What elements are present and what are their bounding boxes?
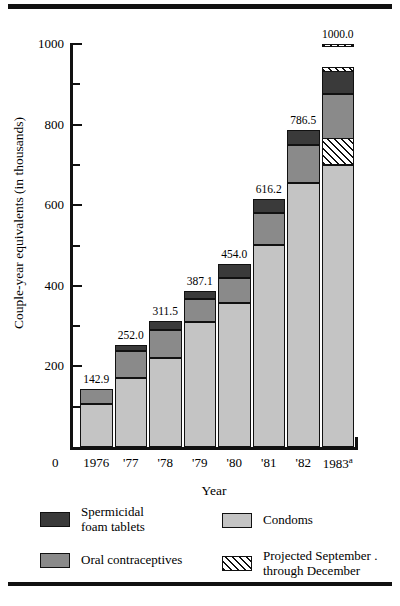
y-tick-minor-500 — [73, 245, 80, 247]
bar-value-label-1983: 1000.0 — [303, 28, 373, 40]
bar-segment-oral-contraceptives — [253, 213, 286, 245]
bar-1983[interactable] — [322, 44, 355, 447]
bar-77[interactable] — [115, 345, 148, 447]
legend-swatch-dark — [40, 512, 70, 527]
bar-segment-oral-contraceptives — [115, 351, 148, 377]
bar-78[interactable] — [149, 321, 182, 447]
x-axis-right-cap — [355, 437, 358, 450]
bar-81[interactable] — [253, 199, 286, 447]
legend-label-line1: Projected September . — [263, 549, 377, 564]
legend-item-3[interactable]: Projected September .through December — [222, 549, 377, 578]
bar-segment-spermicidal-foam-tablets — [115, 345, 148, 351]
legend-label-line1: Oral contraceptives — [81, 553, 182, 568]
bar-80[interactable] — [218, 264, 251, 447]
bar-segment-condoms — [149, 358, 182, 447]
bar-segment-spermicidal-foam-tablets — [218, 264, 251, 278]
chart-legend: Spermicidalfoam tabletsCondomsOral contr… — [0, 505, 400, 575]
legend-item-0[interactable]: Spermicidalfoam tablets — [40, 505, 145, 534]
bar-1976[interactable] — [80, 389, 113, 447]
y-tick-major-800 — [73, 124, 82, 126]
bar-segment-spermicidal-foam-tablets — [149, 321, 182, 330]
legend-label-1: Condoms — [263, 513, 313, 528]
bar-segment-spermicidal-foam-tablets — [253, 199, 286, 214]
bar-segment-condoms — [80, 404, 113, 447]
legend-swatch-medium — [40, 553, 70, 568]
bar-segment-condoms — [287, 183, 320, 447]
x-axis-zero-label: 0 — [52, 455, 59, 471]
y-tick-major-600 — [73, 204, 82, 206]
bar-82[interactable] — [287, 130, 320, 447]
bar-segment-projected-2 — [322, 44, 355, 47]
bar-segment-projected-1 — [322, 67, 355, 72]
bar-segment-oral-contraceptives — [80, 389, 113, 403]
legend-label-line2: through December — [263, 564, 377, 579]
y-tick-major-1000 — [73, 43, 82, 45]
bar-segment-condoms — [184, 322, 217, 447]
y-tick-label-1000: 1000 — [24, 37, 64, 50]
bar-segment-spermicidal-foam-tablets — [184, 291, 217, 299]
y-tick-label-400: 400 — [24, 279, 64, 292]
y-axis-title: Couple-year equivalents (in thousands) — [11, 58, 27, 388]
y-tick-minor-100 — [73, 406, 80, 408]
bar-segment-condoms — [218, 303, 251, 447]
legend-label-line1: Spermicidal — [81, 505, 145, 520]
bar-segment-spermicidal-foam-tablets — [322, 71, 355, 94]
x-axis-title: Year — [70, 483, 358, 499]
y-tick-label-600: 600 — [24, 198, 64, 211]
legend-label-3: Projected September .through December — [263, 549, 377, 578]
bar-segment-condoms — [322, 165, 355, 447]
legend-label-0: Spermicidalfoam tablets — [81, 505, 145, 534]
y-tick-major-400 — [73, 285, 82, 287]
legend-item-1[interactable]: Condoms — [222, 513, 313, 528]
bar-segment-condoms — [253, 245, 286, 447]
bottom-rule — [8, 582, 392, 586]
legend-swatch-hatched — [222, 556, 252, 571]
bar-segment-oral-contraceptives — [149, 330, 182, 357]
legend-item-2[interactable]: Oral contraceptives — [40, 553, 182, 568]
y-tick-minor-700 — [73, 164, 80, 166]
legend-label-line1: Condoms — [263, 513, 313, 528]
bar-segment-oral-contraceptives — [218, 278, 251, 303]
y-tick-minor-300 — [73, 325, 80, 327]
stacked-bar-chart: Couple-year equivalents (in thousands) 2… — [0, 0, 400, 470]
x-axis-line — [70, 447, 358, 450]
y-tick-minor-900 — [73, 83, 80, 85]
bar-segment-oral-contraceptives — [287, 145, 320, 183]
y-tick-major-200 — [73, 365, 82, 367]
y-tick-label-200: 200 — [24, 359, 64, 372]
bar-segment-spermicidal-foam-tablets — [287, 130, 320, 145]
bar-segment-oral-contraceptives — [184, 299, 217, 321]
bar-segment-projected-0 — [322, 138, 355, 165]
bar-segment-condoms — [115, 378, 148, 447]
legend-label-2: Oral contraceptives — [81, 553, 182, 568]
legend-label-line2: foam tablets — [81, 520, 145, 535]
bar-79[interactable] — [184, 291, 217, 447]
legend-swatch-light — [222, 513, 252, 528]
x-tick-label-1983: 1983a — [308, 455, 368, 472]
y-tick-label-800: 800 — [24, 118, 64, 131]
